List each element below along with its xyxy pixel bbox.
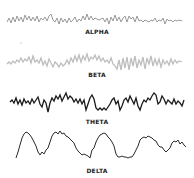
alpha-label: ALPHA xyxy=(0,28,194,35)
brainwave-diagram xyxy=(0,0,194,178)
delta-label: DELTA xyxy=(0,167,194,174)
beta-wave xyxy=(7,54,182,70)
delta-wave xyxy=(16,131,186,158)
theta-label: THETA xyxy=(0,118,194,125)
beta-label: BETA xyxy=(0,71,194,78)
alpha-wave xyxy=(7,14,182,24)
theta-wave xyxy=(10,93,184,112)
